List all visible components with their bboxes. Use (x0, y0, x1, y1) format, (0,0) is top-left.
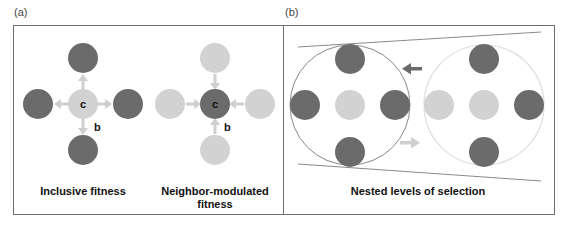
cost-label-right: c (212, 98, 218, 110)
caption-inclusive-fitness: Inclusive fitness (30, 185, 136, 198)
neighbor-top (200, 43, 230, 73)
neighbor-left (155, 89, 185, 119)
arrow-right-light (400, 137, 420, 149)
neighbor-top (68, 43, 98, 73)
caption-neighbor-modulated-line1: Neighbor-modulated (148, 185, 282, 198)
benefit-label-left: b (94, 121, 101, 133)
arrow-left-dark (402, 63, 422, 75)
neighbor-right (113, 89, 143, 119)
neighbor-bottom (200, 135, 230, 165)
neighbor-bottom (68, 135, 98, 165)
neighbor-right (245, 89, 275, 119)
nested-levels-diagram (290, 32, 544, 181)
neighbor-left (23, 89, 53, 119)
cost-label-left: c (80, 98, 86, 110)
caption-neighbor-modulated: Neighbor-modulated fitness (148, 185, 282, 211)
caption-nested-levels: Nested levels of selection (300, 185, 536, 198)
benefit-label-right: b (224, 121, 231, 133)
caption-neighbor-modulated-line2: fitness (148, 198, 282, 211)
